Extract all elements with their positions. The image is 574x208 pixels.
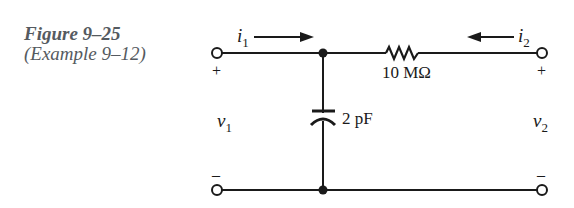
bottom-junction-dot	[319, 186, 328, 195]
minus-sign-right: –	[536, 166, 546, 183]
current-i1-label: i1	[237, 25, 249, 50]
plus-sign-left: +	[212, 62, 221, 79]
terminal-top-right	[537, 48, 547, 58]
terminal-top-left	[212, 48, 222, 58]
resistor-label: 10 MΩ	[382, 63, 431, 82]
current-arrow-i1	[254, 32, 314, 42]
plus-sign-right: +	[537, 62, 546, 79]
circuit-diagram: i1 i2 10 MΩ 2 pF v1 v2 + + – –	[0, 0, 574, 208]
terminal-bottom-right	[537, 185, 547, 195]
minus-sign-left: –	[211, 166, 221, 183]
terminal-bottom-left	[212, 185, 222, 195]
voltage-v1-label: v1	[217, 110, 232, 135]
voltage-v2-label: v2	[533, 110, 548, 135]
resistor-symbol	[386, 47, 418, 59]
top-junction-dot	[319, 49, 328, 58]
current-i2-label: i2	[518, 25, 530, 50]
capacitor-label: 2 pF	[342, 109, 373, 128]
current-arrow-i2	[467, 32, 514, 42]
